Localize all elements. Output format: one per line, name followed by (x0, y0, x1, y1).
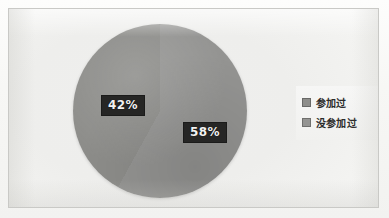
legend-label-not-participated: 没参加过 (316, 115, 357, 130)
chart-frame: 42% 58% 参加过 没参加过 (8, 8, 379, 208)
data-label-not-participated: 58% (183, 122, 227, 143)
pie-chart-screenshot: 42% 58% 参加过 没参加过 (0, 0, 389, 218)
legend-item-not-participated[interactable]: 没参加过 (302, 112, 376, 132)
legend-swatch-icon (302, 118, 311, 127)
chart-legend: 参加过 没参加过 (296, 86, 379, 140)
legend-label-participated: 参加过 (316, 95, 347, 110)
data-label-participated: 42% (101, 95, 145, 116)
legend-item-participated[interactable]: 参加过 (302, 92, 376, 112)
pie-slices[interactable] (73, 24, 247, 198)
legend-swatch-icon (302, 98, 311, 107)
pie-chart: 42% 58% (73, 24, 247, 198)
